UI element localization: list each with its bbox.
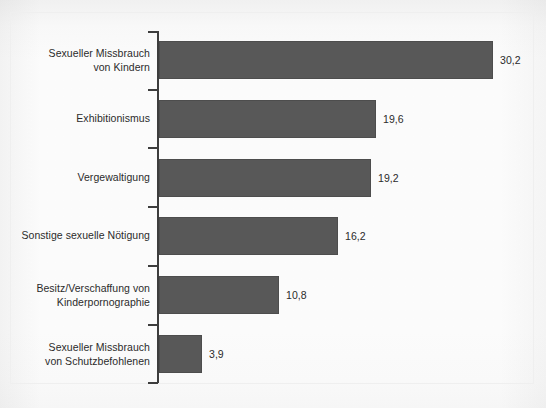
bar[interactable] (159, 41, 493, 79)
bar-track (159, 41, 493, 79)
bar[interactable] (159, 335, 202, 373)
bar-track (159, 276, 279, 314)
bar-row: Sonstige sexuelle Nötigung 16,2 (0, 208, 546, 264)
horizontal-bar-chart: Sexueller Missbrauch von Kindern 30,2 Ex… (0, 0, 546, 408)
bar-track (159, 159, 371, 197)
bar-track (159, 217, 338, 255)
bar[interactable] (159, 100, 376, 138)
axis-tick (148, 147, 158, 149)
bar-row: Besitz/Verschaffung von Kinderpornograph… (0, 267, 546, 323)
category-label: Vergewaltigung (0, 171, 150, 185)
bar-value-label: 3,9 (209, 348, 224, 360)
category-label: Sexueller Missbrauch von Kindern (0, 47, 150, 74)
bar-value-label: 19,2 (378, 172, 399, 184)
bar-value-label: 16,2 (345, 230, 366, 242)
axis-tick (148, 382, 158, 384)
bar-value-label: 19,6 (383, 113, 404, 125)
scanned-page: Sexueller Missbrauch von Kindern 30,2 Ex… (0, 0, 546, 408)
bar-value-label: 10,8 (286, 289, 307, 301)
bar-value-label: 30,2 (500, 54, 521, 66)
category-label: Exhibitionismus (0, 112, 150, 126)
bar-row: Vergewaltigung 19,2 (0, 150, 546, 206)
bar-track (159, 100, 376, 138)
bar-row: Sexueller Missbrauch von Kindern 30,2 (0, 32, 546, 88)
bar-row: Exhibitionismus 19,6 (0, 91, 546, 147)
bar[interactable] (159, 217, 338, 255)
bar-track (159, 335, 202, 373)
bar[interactable] (159, 159, 371, 197)
bar[interactable] (159, 276, 279, 314)
category-label: Sonstige sexuelle Nötigung (0, 229, 150, 243)
category-label: Besitz/Verschaffung von Kinderpornograph… (0, 282, 150, 309)
category-label: Sexueller Missbrauch von Schutzbefohlene… (0, 341, 150, 368)
bar-row: Sexueller Missbrauch von Schutzbefohlene… (0, 326, 546, 382)
